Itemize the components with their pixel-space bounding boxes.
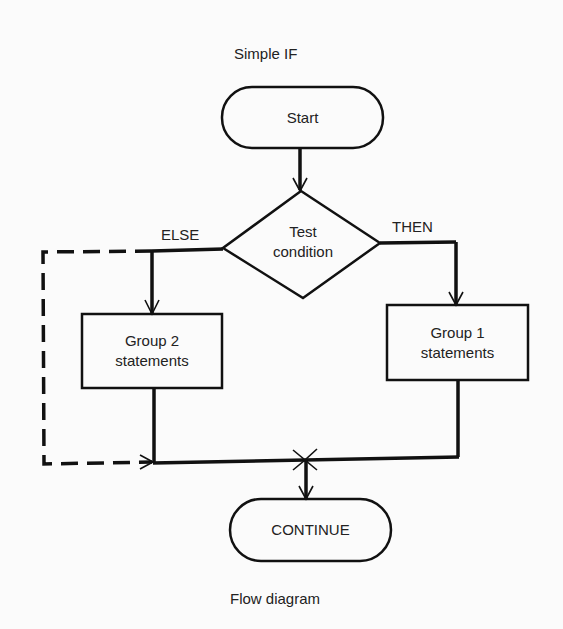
test-condition-label: Test condition [243,212,363,272]
group1-label: Group 1 statements [387,305,528,380]
then-branch-label: THEN [392,218,433,235]
test-line1: Test [289,222,317,242]
test-line2: condition [273,242,333,262]
group2-line2: statements [115,351,188,371]
start-label: Start [222,87,383,148]
diagram-title: Simple IF [234,45,297,62]
group1-line2: statements [421,343,494,363]
group2-line1: Group 2 [125,331,179,351]
else-branch-label: ELSE [161,226,199,243]
group1-line1: Group 1 [430,323,484,343]
group2-label: Group 2 statements [82,314,222,388]
start-text: Start [287,108,319,128]
edge-then-horizontal [380,242,456,243]
continue-label: CONTINUE [230,499,391,561]
continue-text: CONTINUE [271,520,349,540]
diagram-caption: Flow diagram [230,590,320,607]
edge-else-horizontal [152,249,223,251]
